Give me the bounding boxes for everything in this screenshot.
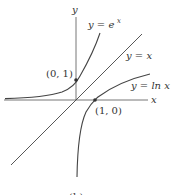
exp-curve-label-sup: x <box>117 17 121 25</box>
identity-line <box>11 34 142 165</box>
x-axis-label: x <box>151 94 157 105</box>
figure-caption: (b) <box>69 191 83 195</box>
point-0-1 <box>74 78 78 82</box>
point-1-0 <box>93 98 97 102</box>
y-axis-label: y <box>71 4 78 15</box>
function-graph: x y (0, 1) (1, 0) y = e x y = x y = ln x… <box>0 0 173 195</box>
exp-curve-label: y = e <box>87 19 114 30</box>
exp-curve <box>5 33 100 99</box>
identity-line-label: y = x <box>125 50 152 61</box>
point-0-1-label: (0, 1) <box>46 68 73 79</box>
point-1-0-label: (1, 0) <box>95 105 122 116</box>
log-curve-label: y = ln x <box>130 80 170 91</box>
